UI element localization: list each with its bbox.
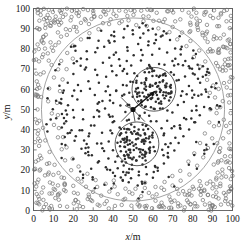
data-point-filled xyxy=(160,127,163,130)
data-point-filled xyxy=(120,176,123,179)
y-tick-label: 80 xyxy=(21,44,31,54)
y-tick-label: 60 xyxy=(21,85,31,95)
data-point-open xyxy=(62,176,66,180)
data-point-open xyxy=(143,186,147,190)
data-point-filled xyxy=(163,97,166,100)
data-point-filled xyxy=(185,93,188,96)
data-point-filled xyxy=(58,63,61,66)
data-point-open xyxy=(38,19,42,23)
data-point-filled xyxy=(112,149,115,152)
data-point-open xyxy=(46,52,50,56)
data-point-filled xyxy=(188,85,191,88)
data-point-open xyxy=(168,30,172,34)
data-point-filled xyxy=(174,57,177,60)
data-point-filled xyxy=(145,166,148,169)
data-point-open xyxy=(189,29,193,33)
data-point-filled xyxy=(135,159,138,162)
data-point-filled xyxy=(164,143,167,146)
data-point-open xyxy=(51,10,55,14)
data-point-filled xyxy=(85,66,88,69)
data-point-filled xyxy=(199,114,202,117)
data-point-filled xyxy=(86,50,89,53)
data-point-filled xyxy=(108,42,111,45)
data-point-filled xyxy=(128,139,131,142)
data-point-open xyxy=(195,11,199,15)
data-point-open xyxy=(139,194,143,198)
data-point-filled xyxy=(215,82,218,85)
data-point-filled xyxy=(126,46,128,49)
data-point-filled xyxy=(163,162,166,165)
data-point-filled xyxy=(216,104,219,107)
data-point-filled xyxy=(75,135,78,138)
data-point-filled xyxy=(144,132,147,135)
data-point-filled xyxy=(169,39,172,42)
data-point-filled xyxy=(197,78,200,81)
data-point-open xyxy=(227,101,231,105)
data-point-filled xyxy=(91,154,94,157)
data-point-filled xyxy=(126,138,129,141)
data-point-filled xyxy=(108,113,111,116)
data-point-open xyxy=(72,184,76,188)
data-point-open xyxy=(80,180,84,184)
data-point-filled xyxy=(100,29,103,32)
data-point-filled xyxy=(111,70,114,73)
data-point-filled xyxy=(73,89,76,92)
data-point-filled xyxy=(126,73,129,76)
data-point-filled xyxy=(188,164,191,167)
data-point-filled xyxy=(148,135,151,138)
x-axis-title: x/m xyxy=(124,231,140,242)
data-point-filled xyxy=(184,60,187,63)
data-point-filled xyxy=(82,177,85,180)
data-point-open xyxy=(190,15,194,19)
data-point-filled xyxy=(138,117,141,120)
data-point-filled xyxy=(145,85,148,88)
data-point-filled xyxy=(143,143,146,146)
data-point-filled xyxy=(46,130,49,133)
data-point-open xyxy=(79,38,83,42)
data-point-open xyxy=(229,51,233,55)
data-point-filled xyxy=(106,168,109,171)
data-point-open xyxy=(46,100,50,104)
data-point-filled xyxy=(179,124,182,127)
data-point-filled xyxy=(179,127,182,130)
data-point-filled xyxy=(165,32,168,35)
data-point-open xyxy=(224,175,228,179)
data-point-open xyxy=(139,9,143,13)
data-point-open xyxy=(64,27,68,31)
data-point-open xyxy=(47,161,51,165)
data-point-filled xyxy=(198,68,201,71)
data-point-filled xyxy=(66,82,69,85)
data-point-open xyxy=(155,11,159,15)
data-point-filled xyxy=(119,104,122,107)
data-point-filled xyxy=(151,136,154,139)
data-point-open xyxy=(205,78,209,82)
data-point-filled xyxy=(137,87,140,90)
data-point-open xyxy=(208,121,212,125)
plot-canvas: 0102030405060708090100 01020304050607080… xyxy=(0,0,245,246)
data-point-filled xyxy=(133,149,136,152)
data-point-filled xyxy=(163,30,166,33)
data-point-filled xyxy=(181,90,184,93)
data-point-open xyxy=(219,184,223,188)
x-tick-label: 50 xyxy=(128,214,138,224)
data-point-open xyxy=(222,33,226,37)
data-point-filled xyxy=(185,118,188,121)
x-tick-label: 80 xyxy=(188,214,198,224)
data-point-open xyxy=(124,187,128,191)
data-point-filled xyxy=(177,142,180,145)
data-point-open xyxy=(220,176,224,180)
data-point-filled xyxy=(141,153,144,156)
data-point-filled xyxy=(69,132,72,135)
data-point-filled xyxy=(142,128,145,131)
data-point-open xyxy=(216,64,220,68)
data-point-filled xyxy=(107,140,110,143)
data-point-filled xyxy=(127,144,129,147)
data-point-filled xyxy=(140,82,143,85)
data-point-open xyxy=(56,184,60,188)
data-point-open xyxy=(201,198,205,202)
data-point-filled xyxy=(59,101,62,104)
data-point-filled xyxy=(191,109,194,112)
data-point-open xyxy=(227,166,231,170)
data-point-open xyxy=(127,19,131,23)
data-point-filled xyxy=(58,85,61,88)
